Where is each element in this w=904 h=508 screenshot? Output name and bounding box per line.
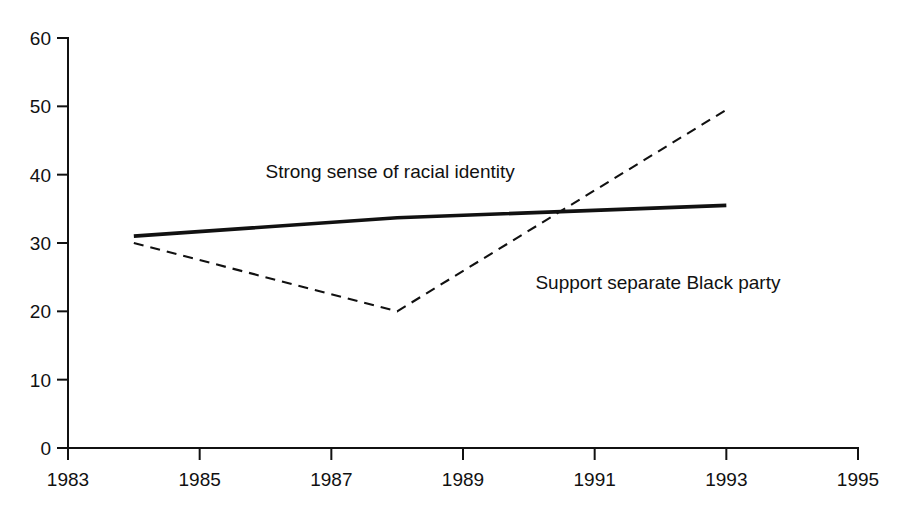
x-tick-label: 1991 [574,469,616,490]
x-tick-label: 1987 [310,469,352,490]
series-label-1: Strong sense of racial identity [266,161,516,182]
y-tick-label: 10 [30,370,51,391]
x-tick-label: 1989 [442,469,484,490]
chart-background [0,0,904,508]
y-tick-label: 30 [30,233,51,254]
y-tick-label: 50 [30,96,51,117]
x-tick-label: 1993 [705,469,747,490]
chart-canvas: 0102030405060 19831985198719891991199319… [0,0,904,508]
y-tick-label: 40 [30,165,51,186]
y-tick-label: 60 [30,28,51,49]
y-tick-label: 20 [30,301,51,322]
y-tick-label: 0 [40,438,51,459]
series-label-2: Support separate Black party [535,272,781,293]
x-tick-label: 1995 [837,469,879,490]
x-tick-label: 1985 [179,469,221,490]
line-chart: 0102030405060 19831985198719891991199319… [0,0,904,508]
x-tick-label: 1983 [47,469,89,490]
